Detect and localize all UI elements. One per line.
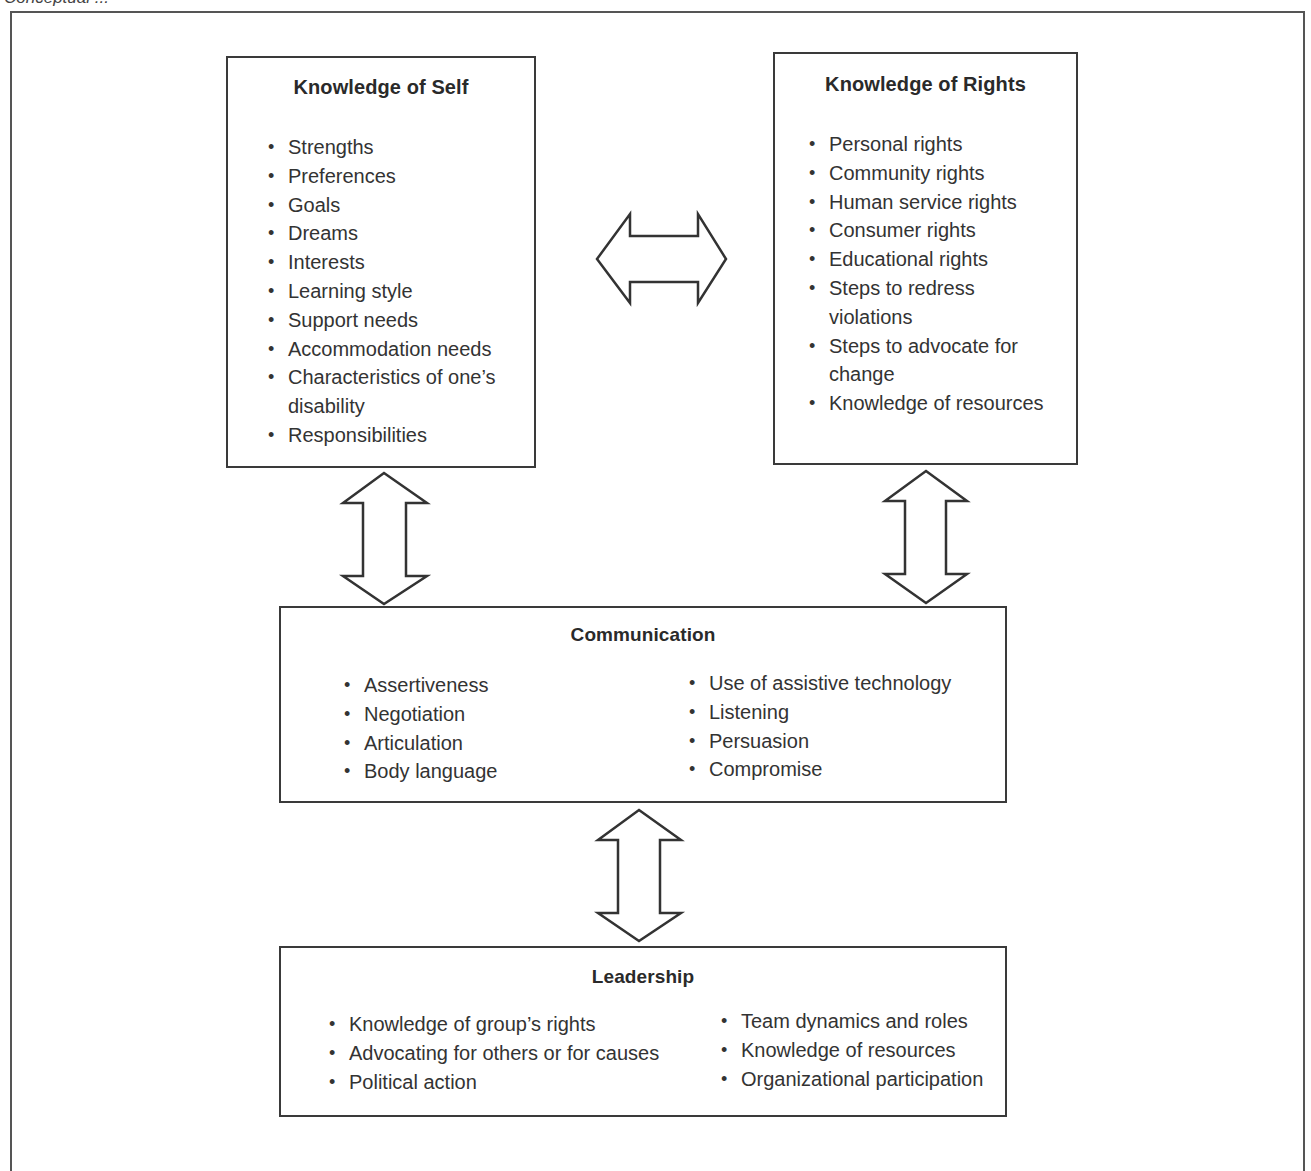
knowledge-of-rights-box: Knowledge of Rights Personal rights Comm…	[773, 52, 1078, 465]
list-item: Negotiation	[344, 700, 497, 729]
knowledge-of-rights-list: Personal rights Community rights Human s…	[809, 130, 1044, 418]
leadership-box: Leadership Knowledge of group’s rights A…	[279, 946, 1007, 1117]
list-item: Organizational participation	[721, 1065, 983, 1094]
list-item: Assertiveness	[344, 671, 497, 700]
list-item: Steps to advocate for change	[809, 332, 1029, 390]
double-arrow-vertical-icon	[341, 472, 429, 606]
list-item: Team dynamics and roles	[721, 1007, 983, 1036]
box-title: Knowledge of Rights	[775, 73, 1076, 96]
leadership-list-left: Knowledge of group’s rights Advocating f…	[329, 1010, 659, 1096]
leadership-list-right: Team dynamics and roles Knowledge of res…	[721, 1007, 983, 1093]
list-item: Responsibilities	[268, 421, 508, 450]
list-item: Strengths	[268, 133, 508, 162]
double-arrow-horizontal-icon	[596, 213, 728, 305]
list-item: Personal rights	[809, 130, 1044, 159]
list-item: Characteristics of one’s disability	[268, 363, 508, 421]
list-item: Knowledge of resources	[809, 389, 1044, 418]
list-item: Goals	[268, 191, 508, 220]
knowledge-of-self-list: Strengths Preferences Goals Dreams Inter…	[268, 133, 508, 450]
box-title: Leadership	[281, 966, 1005, 988]
list-item: Body language	[344, 757, 497, 786]
communication-box: Communication Assertiveness Negotiation …	[279, 606, 1007, 803]
list-item: Educational rights	[809, 245, 1044, 274]
list-item: Steps to redress violations	[809, 274, 999, 332]
list-item: Interests	[268, 248, 508, 277]
list-item: Political action	[329, 1068, 659, 1097]
box-title: Knowledge of Self	[228, 76, 534, 99]
list-item: Knowledge of group’s rights	[329, 1010, 659, 1039]
knowledge-of-self-box: Knowledge of Self Strengths Preferences …	[226, 56, 536, 468]
list-item: Knowledge of resources	[721, 1036, 983, 1065]
list-item: Persuasion	[689, 727, 951, 756]
communication-list-right: Use of assistive technology Listening Pe…	[689, 669, 951, 784]
list-item: Learning style	[268, 277, 508, 306]
list-item: Use of assistive technology	[689, 669, 951, 698]
list-item: Articulation	[344, 729, 497, 758]
list-item: Dreams	[268, 219, 508, 248]
box-title: Communication	[281, 624, 1005, 646]
list-item: Support needs	[268, 306, 508, 335]
list-item: Community rights	[809, 159, 1044, 188]
list-item: Human service rights	[809, 188, 1044, 217]
list-item: Listening	[689, 698, 951, 727]
communication-list-left: Assertiveness Negotiation Articulation B…	[344, 671, 497, 786]
list-item: Compromise	[689, 755, 951, 784]
list-item: Advocating for others or for causes	[329, 1039, 659, 1068]
double-arrow-vertical-icon	[883, 470, 969, 604]
list-item: Consumer rights	[809, 216, 1044, 245]
figure-caption: Conceptual ...	[4, 0, 109, 8]
double-arrow-vertical-icon	[595, 809, 683, 943]
list-item: Accommodation needs	[268, 335, 508, 364]
list-item: Preferences	[268, 162, 508, 191]
